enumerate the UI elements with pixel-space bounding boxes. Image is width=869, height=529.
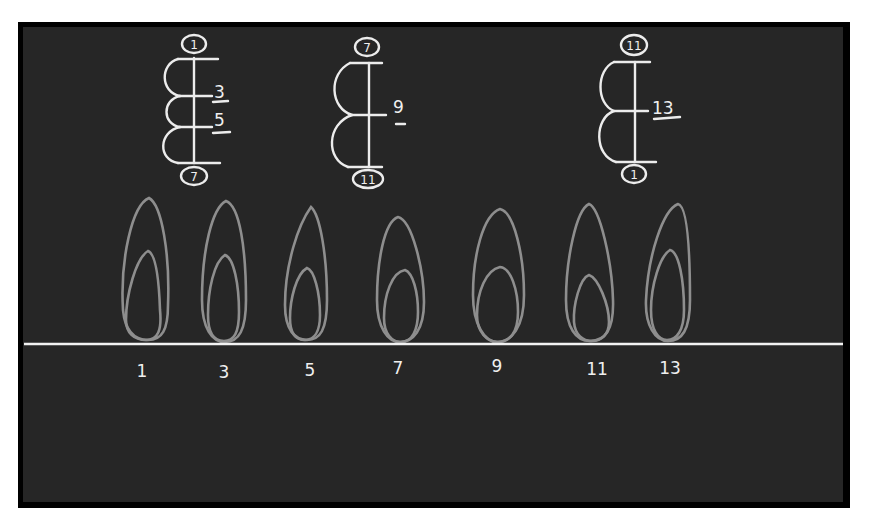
arc-3 bbox=[163, 127, 180, 163]
flame-6 bbox=[566, 204, 613, 341]
baseline-label-5: 5 bbox=[305, 360, 316, 380]
node-label-start: 1 bbox=[190, 38, 198, 52]
flame-inner bbox=[208, 255, 239, 341]
arc-1 bbox=[334, 63, 352, 115]
flame-5 bbox=[473, 209, 524, 342]
baseline-labels: 1 3 5 7 9 11 13 bbox=[137, 356, 681, 382]
flame-inner bbox=[574, 275, 609, 341]
underline-2 bbox=[213, 132, 230, 133]
flame-inner bbox=[126, 251, 160, 340]
flame-inner bbox=[477, 267, 518, 342]
baseline-label-9: 9 bbox=[492, 356, 503, 376]
cycle-diagram-1: 1 3 5 7 bbox=[163, 35, 230, 185]
intermediate-label-1: 13 bbox=[652, 98, 674, 118]
baseline-label-7: 7 bbox=[393, 358, 404, 378]
arc-1 bbox=[601, 62, 615, 111]
baseline-label-13: 13 bbox=[659, 358, 681, 378]
arc-1 bbox=[165, 59, 180, 96]
node-label-end: 7 bbox=[190, 170, 198, 184]
node-label-end: 11 bbox=[360, 173, 375, 187]
node-label-start: 11 bbox=[626, 39, 641, 53]
baseline-label-3: 3 bbox=[219, 362, 230, 382]
node-label-end: 1 bbox=[630, 168, 638, 182]
flame-1 bbox=[123, 198, 169, 340]
baseline-label-11: 11 bbox=[586, 359, 608, 379]
arc-2 bbox=[167, 96, 181, 127]
flame-2 bbox=[202, 201, 246, 342]
flame-row bbox=[123, 198, 690, 342]
underline-1 bbox=[213, 101, 228, 102]
arc-2 bbox=[599, 111, 616, 162]
baseline-label-1: 1 bbox=[137, 361, 148, 381]
cycle-diagram-2: 7 9 11 bbox=[332, 38, 405, 188]
cycle-diagram-3: 11 13 1 bbox=[599, 35, 680, 183]
intermediate-label-1: 9 bbox=[393, 97, 404, 117]
diagram-canvas: 1 3 5 7 7 9 11 11 bbox=[0, 0, 869, 529]
intermediate-label-1: 3 bbox=[214, 82, 225, 102]
intermediate-label-2: 5 bbox=[214, 110, 225, 130]
arc-2 bbox=[332, 115, 352, 167]
flame-inner bbox=[384, 270, 418, 342]
node-label-start: 7 bbox=[363, 41, 371, 55]
flame-7 bbox=[646, 204, 690, 341]
flame-inner bbox=[290, 268, 320, 340]
flame-3 bbox=[285, 207, 327, 340]
flame-4 bbox=[377, 217, 424, 342]
flame-inner bbox=[651, 250, 684, 340]
